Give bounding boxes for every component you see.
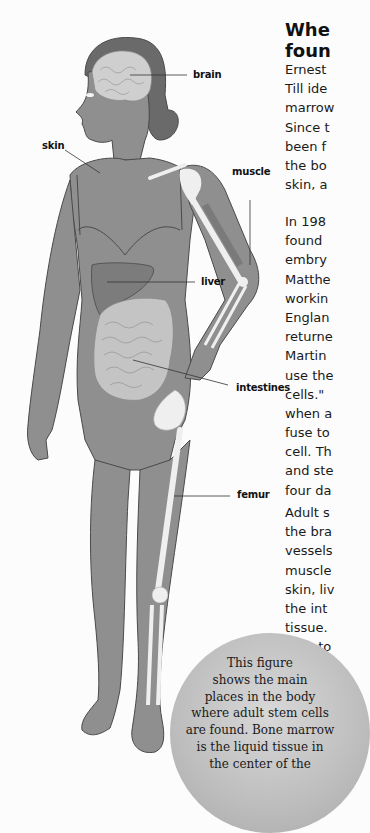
figure-label-muscle: muscle xyxy=(232,166,270,177)
heading-line: foun xyxy=(285,40,331,61)
text-line: Matthe xyxy=(285,270,333,289)
text-line: tissue. xyxy=(285,618,334,637)
brain-illustration xyxy=(92,51,152,101)
text-line: Martin xyxy=(285,346,333,365)
body-paragraph-2: In 198 found embry Matthe workin Englan … xyxy=(285,212,333,500)
text-line: vessels xyxy=(285,541,334,560)
caption-line: places in the body xyxy=(170,689,350,706)
left-arm-illustration xyxy=(27,180,80,460)
text-line: when a xyxy=(285,404,333,423)
text-line: use the xyxy=(285,366,333,385)
caption-line: the center of the xyxy=(170,756,350,773)
text-line: found xyxy=(285,231,333,250)
text-line: and ste xyxy=(285,461,333,480)
figure-label-skin: skin xyxy=(42,140,64,151)
figure-label-intestines: intestines xyxy=(236,382,290,393)
section-heading: Whe foun xyxy=(285,19,331,61)
caption-line: where adult stem cells xyxy=(170,705,350,722)
text-line: cell. Th xyxy=(285,442,333,461)
caption-line: are found. Bone marrow xyxy=(170,722,350,739)
text-line: Englan xyxy=(285,308,333,327)
intestines-illustration xyxy=(94,298,173,400)
heading-line: Whe xyxy=(285,19,331,40)
text-line: the bo xyxy=(285,156,334,175)
text-line: marrow xyxy=(285,98,334,117)
text-line: In 198 xyxy=(285,212,333,231)
caption-line: This figure xyxy=(170,655,350,672)
caption-line: shows the main xyxy=(170,672,350,689)
text-line: four da xyxy=(285,481,333,500)
text-line: embry xyxy=(285,250,333,269)
text-line: cells." xyxy=(285,385,333,404)
text-line: skin, a xyxy=(285,175,334,194)
text-line: been f xyxy=(285,137,334,156)
body-paragraph-1: Ernest Till ide marrow Since t been f th… xyxy=(285,60,334,194)
text-line: the int xyxy=(285,599,334,618)
text-line: returne xyxy=(285,327,333,346)
text-line: skin, liv xyxy=(285,580,334,599)
text-line: fuse to xyxy=(285,423,333,442)
text-line: Since t xyxy=(285,118,334,137)
figure-label-femur: femur xyxy=(237,489,270,500)
figure-caption: This figure shows the main places in the… xyxy=(170,655,350,773)
figure-label-liver: liver xyxy=(201,276,225,287)
text-line: Till ide xyxy=(285,79,334,98)
text-line: Adult s xyxy=(285,503,334,522)
text-line: muscle xyxy=(285,561,334,580)
text-line: workin xyxy=(285,289,333,308)
text-line: Ernest xyxy=(285,60,334,79)
caption-line: is the liquid tissue in xyxy=(170,739,350,756)
figure-label-brain: brain xyxy=(193,69,221,80)
text-line: the bra xyxy=(285,522,334,541)
